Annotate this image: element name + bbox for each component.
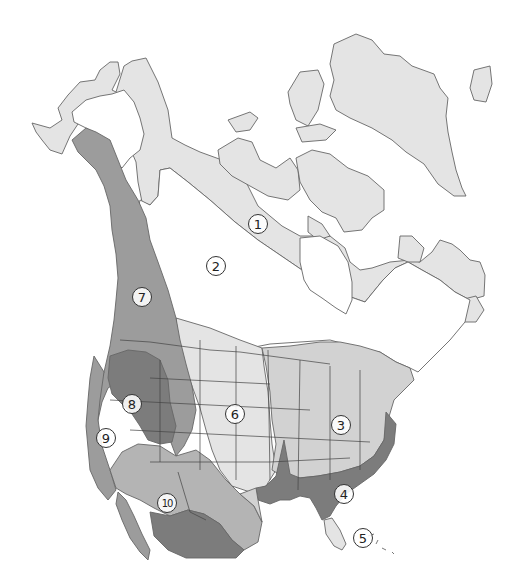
zone-label-2: 2 [206,256,226,276]
zone-label-7: 7 [132,287,152,307]
zone-label-1: 1 [248,214,268,234]
zone-label-6: 6 [225,404,245,424]
north-america-zone-map: 1 2 3 4 5 6 7 8 9 10 [0,0,515,575]
zone-label-9: 9 [96,428,116,448]
zone-5-florida-tropical [324,518,346,550]
map-canvas [0,0,515,575]
zone-label-8: 8 [122,394,142,414]
zone-label-10: 10 [157,493,177,513]
zone-label-4: 4 [334,484,354,504]
labrador-tundra [398,236,424,262]
arctic-island [288,70,324,126]
iceland [470,66,492,102]
zone-label-3: 3 [331,415,351,435]
zone-label-5: 5 [353,528,373,548]
arctic-island [228,112,258,132]
arctic-island [296,124,336,142]
